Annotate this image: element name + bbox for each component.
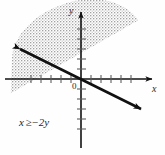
caption-rhs: −2y <box>31 116 49 128</box>
x-axis-label: x <box>152 84 156 94</box>
origin-label: 0 <box>72 82 77 91</box>
y-axis-label: y <box>69 6 73 16</box>
inequality-graph-figure: y x 0 x≥−2y <box>0 0 165 155</box>
graph-canvas <box>0 0 165 155</box>
inequality-caption: x≥−2y <box>19 117 49 128</box>
